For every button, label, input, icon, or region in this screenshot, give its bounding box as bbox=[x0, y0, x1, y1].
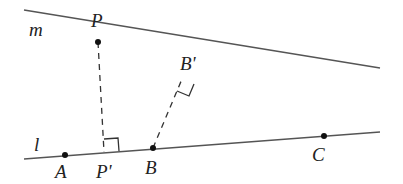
right-angle-marker-p-prime bbox=[104, 138, 119, 151]
segment-p-p-prime bbox=[98, 42, 104, 152]
label-b-prime: B' bbox=[180, 53, 197, 74]
label-l: l bbox=[34, 134, 39, 155]
label-m: m bbox=[29, 19, 43, 40]
label-a: A bbox=[53, 161, 67, 182]
point-b bbox=[150, 145, 156, 151]
geometry-diagram: m l P B' A P' B C bbox=[0, 0, 403, 184]
label-c: C bbox=[312, 144, 325, 165]
point-p bbox=[95, 39, 101, 45]
label-p: P bbox=[90, 10, 103, 31]
point-a bbox=[62, 152, 68, 158]
label-b: B bbox=[145, 157, 157, 178]
point-c bbox=[321, 133, 327, 139]
line-m bbox=[24, 10, 380, 68]
segment-b-b-prime bbox=[153, 79, 182, 148]
diagram-canvas: m l P B' A P' B C bbox=[0, 0, 403, 184]
label-p-prime: P' bbox=[95, 161, 113, 182]
